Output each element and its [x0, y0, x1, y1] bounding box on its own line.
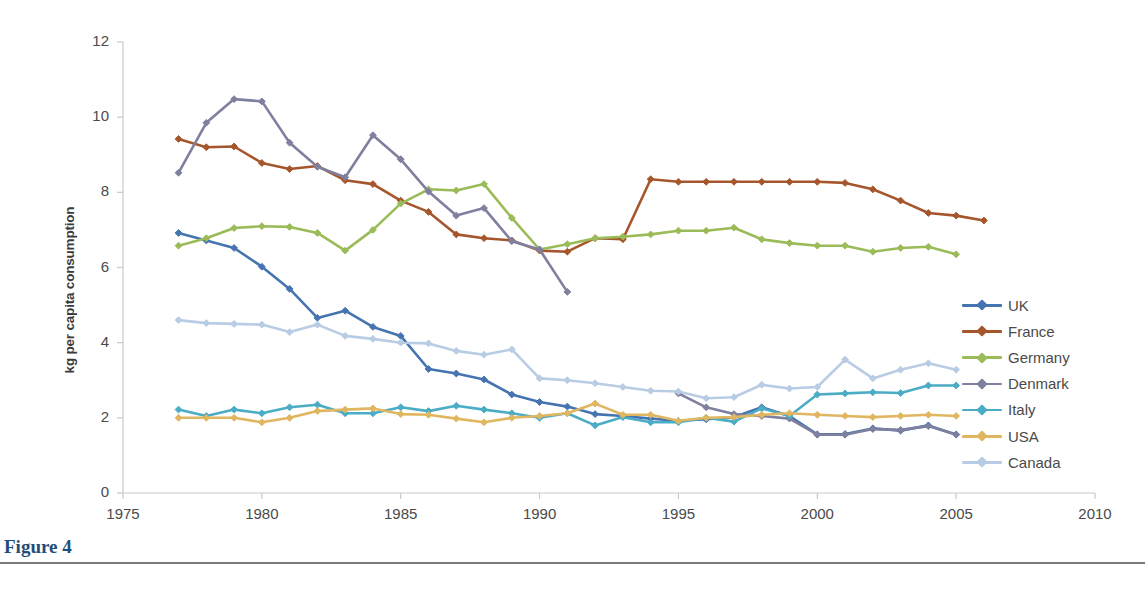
x-tick-1980: 1980	[232, 505, 292, 522]
legend-item-france[interactable]: France	[962, 318, 1142, 344]
series-canada	[175, 317, 959, 402]
legend-label: Germany	[1002, 349, 1070, 366]
legend-item-italy[interactable]: Italy	[962, 397, 1142, 423]
legend-item-usa[interactable]: USA	[962, 423, 1142, 449]
legend-item-denmark[interactable]: Denmark	[962, 371, 1142, 397]
y-tick-2: 2	[75, 408, 109, 425]
y-tick-0: 0	[75, 483, 109, 500]
series-lines	[175, 96, 987, 438]
legend-swatch-icon	[962, 430, 1002, 442]
legend-item-uk[interactable]: UK	[962, 292, 1142, 318]
axes	[117, 42, 1095, 499]
legend-label: France	[1002, 323, 1055, 340]
legend-label: Italy	[1002, 401, 1036, 418]
line-chart: kg per capita consumption 024681012 1975…	[0, 0, 1145, 530]
legend-swatch-icon	[962, 404, 1002, 416]
figure-container: kg per capita consumption 024681012 1975…	[0, 0, 1145, 595]
legend-label: UK	[1002, 297, 1029, 314]
legend-swatch-icon	[962, 351, 1002, 363]
x-tick-1985: 1985	[371, 505, 431, 522]
x-tick-1995: 1995	[648, 505, 708, 522]
legend-label: Denmark	[1002, 375, 1069, 392]
x-tick-1990: 1990	[510, 505, 570, 522]
legend-item-germany[interactable]: Germany	[962, 344, 1142, 370]
series-denmark	[175, 96, 571, 296]
y-tick-12: 12	[75, 32, 109, 49]
legend-swatch-icon	[962, 456, 1002, 468]
caption-divider	[0, 562, 1145, 564]
x-tick-2005: 2005	[926, 505, 986, 522]
legend-swatch-icon	[962, 378, 1002, 390]
y-axis-title: kg per capita consumption	[62, 180, 84, 400]
legend-swatch-icon	[962, 325, 1002, 337]
y-tick-8: 8	[75, 182, 109, 199]
figure-caption-block: Figure 4	[0, 536, 1145, 564]
x-tick-2010: 2010	[1065, 505, 1125, 522]
series-germany	[175, 181, 959, 258]
legend-label: Canada	[1002, 454, 1061, 471]
series-france	[175, 136, 987, 256]
x-tick-2000: 2000	[787, 505, 847, 522]
y-tick-4: 4	[75, 333, 109, 350]
y-tick-10: 10	[75, 107, 109, 124]
legend-item-canada[interactable]: Canada	[962, 449, 1142, 475]
chart-legend: UKFranceGermanyDenmarkItalyUSACanada	[962, 292, 1142, 475]
y-tick-6: 6	[75, 258, 109, 275]
legend-swatch-icon	[962, 299, 1002, 311]
figure-caption: Figure 4	[0, 536, 1145, 562]
legend-label: USA	[1002, 428, 1039, 445]
x-tick-1975: 1975	[93, 505, 153, 522]
